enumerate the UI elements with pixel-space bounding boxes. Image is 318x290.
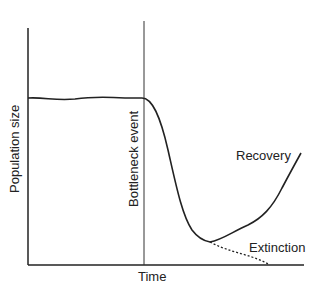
extinction-label: Extinction — [249, 240, 305, 255]
bottleneck-diagram: Population size Bottleneck event Time Re… — [0, 0, 318, 290]
x-axis-label: Time — [138, 269, 166, 284]
bottleneck-label: Bottleneck event — [126, 110, 141, 207]
recovery-label: Recovery — [236, 148, 291, 163]
population-curve — [28, 97, 301, 242]
y-axis-label: Population size — [7, 105, 22, 193]
